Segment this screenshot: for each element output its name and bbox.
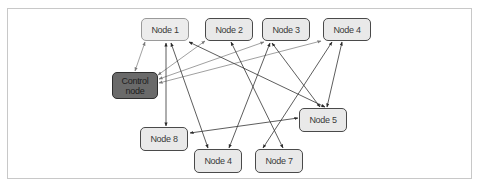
edge-node3-node4bottom bbox=[229, 43, 270, 148]
node-7: Node 7 bbox=[255, 149, 303, 173]
edge-control-node1 bbox=[135, 42, 145, 71]
node-5: Node 5 bbox=[299, 108, 347, 132]
edge-control-node4top bbox=[159, 41, 321, 83]
node-3: Node 3 bbox=[262, 18, 310, 41]
control-node: Control node bbox=[112, 72, 158, 99]
edge-node1-node5 bbox=[189, 42, 325, 107]
edge-control-node3 bbox=[159, 42, 264, 79]
edge-node8-node5 bbox=[190, 118, 298, 133]
node-4-bottom: Node 4 bbox=[194, 149, 242, 173]
node-2: Node 2 bbox=[205, 18, 253, 41]
edge-node4top-node5 bbox=[327, 42, 342, 107]
node-8: Node 8 bbox=[140, 127, 188, 151]
edge-node4top-node7 bbox=[263, 42, 332, 148]
node-1: Node 1 bbox=[141, 18, 189, 41]
node-4-top: Node 4 bbox=[323, 18, 371, 41]
